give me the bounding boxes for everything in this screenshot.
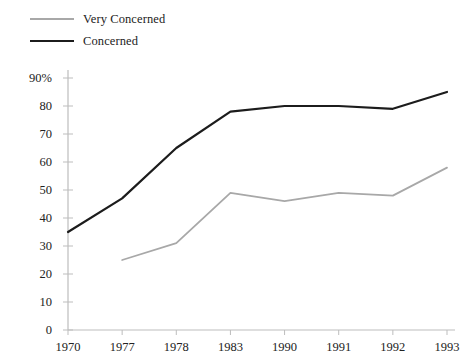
y-axis-tick-label: 0 — [14, 323, 52, 338]
y-axis-tick-label: 10 — [14, 295, 52, 310]
y-axis-tick-label: 40 — [14, 211, 52, 226]
y-axis-tick-label: 90% — [14, 71, 52, 86]
x-axis-tick-label: 1983 — [208, 340, 252, 355]
y-axis-tick-label: 50 — [14, 183, 52, 198]
y-axis-tick-label: 70 — [14, 127, 52, 142]
x-axis-tick-label: 1970 — [46, 340, 90, 355]
series-line-very-concerned — [122, 168, 447, 260]
x-axis-tick-label: 1992 — [371, 340, 415, 355]
y-axis-tick-label: 60 — [14, 155, 52, 170]
y-axis-tick-label: 20 — [14, 267, 52, 282]
x-axis-tick-label: 1993 — [425, 340, 464, 355]
series-layer — [68, 92, 447, 260]
x-axis-tick-label: 1978 — [154, 340, 198, 355]
y-axis-tick-label: 30 — [14, 239, 52, 254]
x-axis-tick-label: 1977 — [100, 340, 144, 355]
y-axis-tick-label: 80 — [14, 99, 52, 114]
series-line-concerned — [68, 92, 447, 232]
x-axis-tick-label: 1990 — [263, 340, 307, 355]
x-axis-tick-label: 1991 — [317, 340, 361, 355]
